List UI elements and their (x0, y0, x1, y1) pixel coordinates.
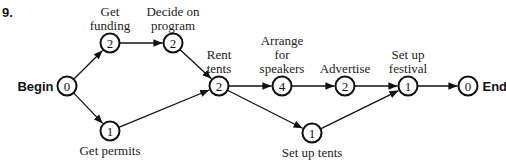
node-duration: 2 (107, 36, 114, 51)
edge-rent-tents-to-set-up-tents (227, 90, 302, 128)
node-label: speakers (260, 61, 305, 76)
node-advertise: 2Advertise (320, 61, 371, 96)
node-duration: 1 (405, 79, 412, 94)
node-duration: 0 (465, 79, 472, 94)
edge-begin-to-get-funding (74, 50, 103, 79)
node-label: Set up (392, 47, 425, 62)
node-label: Get permits (79, 143, 140, 158)
node-duration: 1 (309, 126, 316, 141)
node-rent-tents: 2Renttents (207, 47, 232, 96)
node-label: Decide on (146, 4, 200, 19)
node-label: program (151, 18, 195, 33)
node-label: Get (101, 4, 120, 19)
node-label: Arrange (261, 33, 304, 48)
edge-begin-to-get-permits (74, 93, 103, 124)
node-get-permits: 1Get permits (79, 122, 140, 158)
node-label: tents (207, 61, 232, 76)
node-duration: 1 (107, 124, 114, 139)
node-label: Rent (207, 47, 232, 62)
problem-number: 9. (2, 5, 13, 20)
node-get-funding: 2Getfunding (90, 4, 131, 53)
node-label: funding (90, 18, 131, 33)
node-label: Advertise (320, 61, 371, 76)
node-duration: 2 (170, 36, 177, 51)
node-label: End (483, 79, 506, 94)
node-set-up-tents: 1Set up tents (282, 124, 343, 160)
edge-set-up-tents-to-set-up-festival (321, 91, 399, 129)
node-duration: 2 (216, 79, 223, 94)
node-end: 0End (459, 77, 506, 96)
node-duration: 4 (279, 79, 286, 94)
nodes-layer: 0Begin2Getfunding1Get permits2Decide onp… (17, 4, 506, 160)
node-decide-on-program: 2Decide onprogram (146, 4, 200, 53)
node-duration: 2 (342, 79, 349, 94)
edge-get-permits-to-rent-tents (119, 90, 210, 127)
node-label: festival (389, 61, 428, 76)
node-label: Begin (17, 79, 53, 94)
node-duration: 0 (64, 79, 71, 94)
node-begin: 0Begin (17, 77, 76, 96)
node-label: Set up tents (282, 145, 343, 160)
node-label: for (274, 47, 290, 62)
node-set-up-festival: 1Set upfestival (389, 47, 428, 96)
activity-network-diagram: 9. 0Begin2Getfunding1Get permits2Decide … (0, 0, 506, 163)
